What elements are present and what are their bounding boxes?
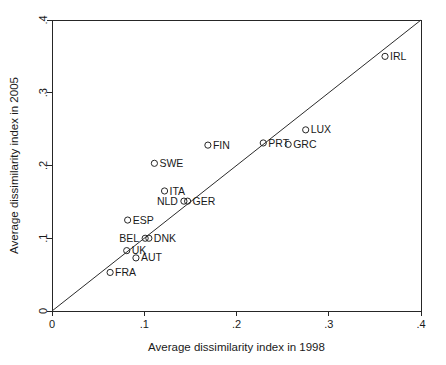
data-point-swe: SWE bbox=[151, 157, 183, 169]
point-label-lux: LUX bbox=[311, 123, 331, 135]
data-point-prt: PRT bbox=[260, 137, 289, 149]
y-tick-label-1: .1 bbox=[37, 234, 49, 243]
data-point-bel: BEL bbox=[119, 232, 148, 244]
x-tick-label-2: .2 bbox=[232, 318, 241, 330]
x-tick-label-1: .1 bbox=[140, 318, 149, 330]
data-point-lux: LUX bbox=[303, 123, 332, 135]
y-tick-label-0: 0 bbox=[37, 308, 49, 314]
point-label-prt: PRT bbox=[268, 137, 289, 149]
point-label-dnk: DNK bbox=[154, 232, 176, 244]
y-axis-title: Average dissimilarity index in 2005 bbox=[8, 77, 20, 254]
point-label-irl: IRL bbox=[390, 50, 407, 62]
point-label-nld: NLD bbox=[157, 195, 178, 207]
marker-ita bbox=[161, 188, 167, 194]
marker-irl bbox=[382, 53, 388, 59]
marker-lux bbox=[303, 127, 309, 133]
point-label-swe: SWE bbox=[159, 157, 183, 169]
chart-canvas: 0.1.2.3.40.1.2.3.4 IRLLUXGRCPRTFINSWEITA… bbox=[0, 0, 446, 365]
reference-line-45-degree bbox=[52, 20, 421, 311]
marker-bel bbox=[142, 235, 148, 241]
marker-esp bbox=[125, 217, 131, 223]
point-label-ger: GER bbox=[193, 195, 216, 207]
y-tick-label-3: .3 bbox=[37, 88, 49, 97]
scatter-plot-figure: 0.1.2.3.40.1.2.3.4 IRLLUXGRCPRTFINSWEITA… bbox=[0, 0, 446, 365]
x-tick-label-3: .3 bbox=[324, 318, 333, 330]
point-label-bel: BEL bbox=[119, 232, 139, 244]
marker-swe bbox=[151, 160, 157, 166]
x-tick-label-0: 0 bbox=[49, 318, 55, 330]
marker-nld bbox=[181, 198, 187, 204]
point-label-fin: FIN bbox=[213, 139, 230, 151]
data-point-fin: FIN bbox=[205, 139, 230, 151]
point-label-grc: GRC bbox=[293, 138, 317, 150]
x-axis-title: Average dissimilarity index in 1998 bbox=[148, 341, 325, 353]
data-point-esp: ESP bbox=[125, 214, 154, 226]
data-point-ger: GER bbox=[185, 195, 216, 207]
data-point-grc: GRC bbox=[285, 138, 317, 150]
marker-fin bbox=[205, 142, 211, 148]
point-label-fra: FRA bbox=[115, 266, 136, 278]
marker-fra bbox=[107, 269, 113, 275]
point-label-esp: ESP bbox=[133, 214, 154, 226]
x-tick-label-4: .4 bbox=[416, 318, 425, 330]
axis-titles: Average dissimilarity index in 1998Avera… bbox=[8, 77, 325, 353]
data-point-irl: IRL bbox=[382, 50, 407, 62]
data-points: IRLLUXGRCPRTFINSWEITAGERNLDESPDNKBELUKAU… bbox=[107, 50, 407, 278]
reference-line bbox=[52, 20, 421, 311]
y-tick-label-2: .2 bbox=[37, 161, 49, 170]
point-label-aut: AUT bbox=[141, 251, 163, 263]
y-tick-label-4: .4 bbox=[37, 15, 49, 24]
data-point-fra: FRA bbox=[107, 266, 136, 278]
